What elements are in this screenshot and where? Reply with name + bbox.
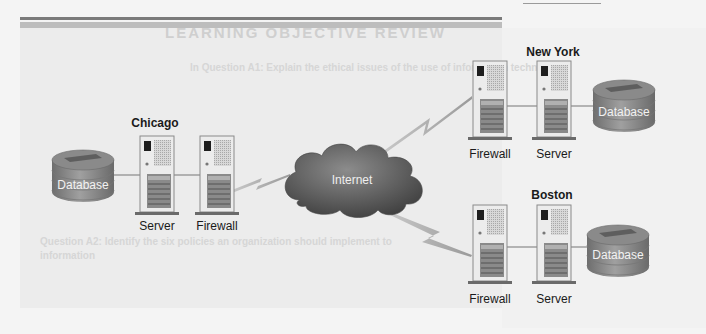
server-label-boston: Server <box>536 292 571 306</box>
firewall-label-boston: Firewall <box>469 292 510 306</box>
database-label-boston: Database <box>592 248 643 262</box>
site-label-boston: Boston <box>531 188 572 202</box>
database-label-chicago: Database <box>57 178 108 192</box>
network-diagram <box>0 0 706 334</box>
firewall-label-chicago: Firewall <box>196 219 237 233</box>
internet-label: Internet <box>332 173 373 187</box>
site-label-new-york: New York <box>526 45 580 59</box>
site-label-chicago: Chicago <box>131 116 178 130</box>
server-label-chicago: Server <box>139 219 174 233</box>
server-label-new-york: Server <box>536 147 571 161</box>
database-label-new-york: Database <box>598 105 649 119</box>
firewall-label-new-york: Firewall <box>469 147 510 161</box>
